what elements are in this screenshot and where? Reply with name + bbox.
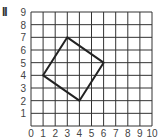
svg-text:9: 9 [137,128,143,139]
svg-text:10: 10 [146,128,158,139]
svg-text:7: 7 [113,128,119,139]
svg-text:7: 7 [20,32,26,43]
svg-text:1: 1 [20,108,26,119]
svg-text:6: 6 [101,128,107,139]
x-axis-ticks: 012345678910 [28,128,158,139]
square-shape [43,37,104,100]
svg-text:2: 2 [20,96,26,107]
svg-text:3: 3 [65,128,71,139]
svg-text:4: 4 [77,128,83,139]
grid-lines [31,12,152,126]
svg-text:2: 2 [52,128,58,139]
svg-text:8: 8 [20,20,26,31]
svg-text:8: 8 [125,128,131,139]
svg-text:1: 1 [40,128,46,139]
y-axis-ticks: 123456789 [20,7,26,119]
svg-text:4: 4 [20,70,26,81]
svg-text:0: 0 [28,128,34,139]
svg-text:3: 3 [20,83,26,94]
coordinate-grid: 012345678910123456789 [0,0,161,139]
svg-text:5: 5 [20,58,26,69]
svg-text:5: 5 [89,128,95,139]
svg-text:9: 9 [20,7,26,18]
svg-text:6: 6 [20,45,26,56]
